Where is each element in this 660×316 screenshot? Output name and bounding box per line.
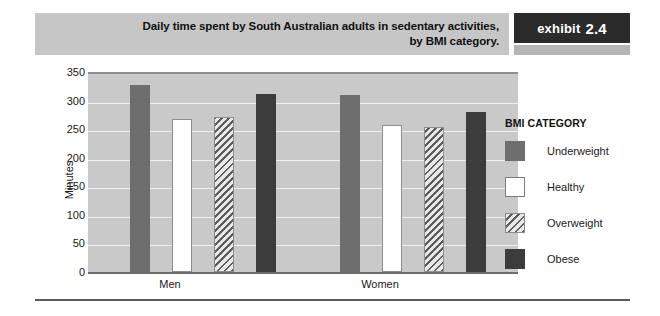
- legend: BMI CATEGORY Underweight Healthy Overwei…: [505, 117, 655, 284]
- y-axis-tick: 50: [73, 238, 85, 249]
- gridline: [88, 131, 518, 132]
- bar-women-healthy: [382, 125, 402, 272]
- y-axis-tick: 200: [67, 152, 85, 163]
- exhibit-badge: exhibit 2.4: [514, 13, 630, 43]
- y-axis-tick: 100: [67, 209, 85, 220]
- y-axis-tick: 350: [67, 67, 85, 78]
- legend-swatch-overweight: [505, 213, 525, 233]
- plot-area: [88, 72, 518, 272]
- x-axis-label-women: Women: [335, 278, 425, 290]
- legend-title: BMI CATEGORY: [505, 117, 655, 129]
- y-axis-tick: 150: [67, 181, 85, 192]
- y-axis-tick: 250: [67, 124, 85, 135]
- bar-men-healthy: [172, 119, 192, 272]
- title-line-1: Daily time spent by South Australian adu…: [143, 19, 499, 34]
- bar-men-overweight: [214, 117, 234, 272]
- legend-item-obese: Obese: [505, 248, 655, 269]
- gridline: [88, 217, 518, 218]
- y-axis-tick: 300: [67, 95, 85, 106]
- legend-label-underweight: Underweight: [547, 145, 609, 157]
- y-axis-tick: 0: [79, 267, 85, 278]
- bar-women-overweight: [424, 127, 444, 272]
- gridline: [88, 160, 518, 161]
- legend-swatch-underweight: [505, 141, 525, 161]
- gridline: [88, 245, 518, 246]
- bar-men-underweight: [130, 85, 150, 272]
- legend-item-overweight: Overweight: [505, 212, 655, 233]
- legend-label-overweight: Overweight: [547, 217, 603, 229]
- title-line-2: by BMI category.: [143, 34, 499, 49]
- legend-label-obese: Obese: [547, 253, 579, 265]
- x-axis-line: [88, 272, 518, 274]
- bar-women-underweight: [340, 95, 360, 272]
- legend-item-underweight: Underweight: [505, 140, 655, 161]
- exhibit-title-banner: Daily time spent by South Australian adu…: [35, 13, 630, 55]
- exhibit-word: exhibit: [537, 21, 580, 36]
- legend-label-healthy: Healthy: [547, 181, 584, 193]
- gridline: [88, 188, 518, 189]
- legend-item-healthy: Healthy: [505, 176, 655, 197]
- x-axis-label-men: Men: [125, 278, 215, 290]
- exhibit-number: 2.4: [585, 20, 606, 37]
- gridline: [88, 103, 518, 104]
- exhibit-label-wrap: exhibit 2.4: [514, 13, 630, 55]
- y-axis-tick-labels: 350300250200150100500: [57, 72, 85, 272]
- title-bar: Daily time spent by South Australian adu…: [35, 13, 509, 55]
- page-title: Daily time spent by South Australian adu…: [143, 19, 499, 49]
- legend-swatch-obese: [505, 249, 525, 269]
- legend-swatch-healthy: [505, 177, 525, 197]
- bar-women-obese: [466, 112, 486, 272]
- bottom-divider: [35, 299, 630, 301]
- exhibit-badge-footer: [514, 45, 630, 55]
- bar-men-obese: [256, 94, 276, 272]
